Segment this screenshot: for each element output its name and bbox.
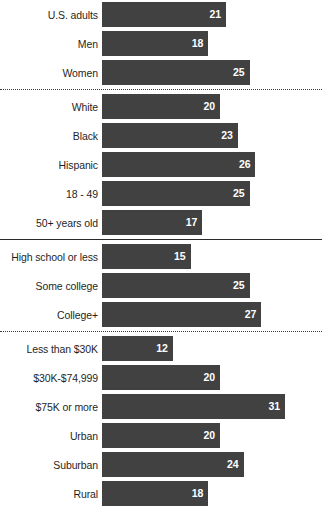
bar-value-label: 25 — [233, 280, 244, 291]
bar: 20 — [102, 365, 220, 390]
bar-category-label: Less than $30K — [0, 343, 102, 355]
bar-value-label: 18 — [192, 38, 203, 49]
bar-category-label: Rural — [0, 488, 102, 500]
chart-group-income-and-community: Less than $30K12$30K-$74,99920$75K or mo… — [0, 334, 322, 506]
bar-category-label: U.S. adults — [0, 9, 102, 21]
bar-track: 15 — [102, 242, 322, 271]
bar-row: 50+ years old17 — [0, 208, 322, 237]
bar-value-label: 21 — [209, 9, 220, 20]
bar-track: 27 — [102, 300, 322, 329]
bar-row: U.S. adults21 — [0, 0, 322, 29]
bar-track: 21 — [102, 0, 322, 29]
bar: 12 — [102, 336, 173, 361]
bar-row: 18 - 4925 — [0, 179, 322, 208]
bar-value-label: 17 — [186, 217, 197, 228]
bar-category-label: High school or less — [0, 251, 102, 263]
bar-row: Suburban24 — [0, 450, 322, 479]
bar: 21 — [102, 2, 226, 27]
bar-chart: U.S. adults21Men18Women25White20Black23H… — [0, 0, 322, 506]
bar-value-label: 24 — [227, 459, 238, 470]
bar-track: 17 — [102, 208, 322, 237]
bar-row: Black23 — [0, 121, 322, 150]
bar-track: 18 — [102, 479, 322, 506]
bar-value-label: 23 — [221, 130, 232, 141]
bar-track: 20 — [102, 92, 322, 121]
bar-category-label: 18 - 49 — [0, 188, 102, 200]
bar-track: 25 — [102, 271, 322, 300]
bar-row: $30K-$74,99920 — [0, 363, 322, 392]
bar-track: 31 — [102, 392, 322, 421]
chart-group-total-and-gender: U.S. adults21Men18Women25 — [0, 0, 322, 87]
bar: 20 — [102, 94, 220, 119]
bar: 25 — [102, 60, 250, 85]
bar-row: Less than $30K12 — [0, 334, 322, 363]
bar-category-label: Women — [0, 67, 102, 79]
bar-track: 24 — [102, 450, 322, 479]
bar-value-label: 26 — [239, 159, 250, 170]
bar-row: Women25 — [0, 58, 322, 87]
bar-track: 23 — [102, 121, 322, 150]
bar-track: 25 — [102, 58, 322, 87]
bar-row: Some college25 — [0, 271, 322, 300]
bar-category-label: $30K-$74,999 — [0, 372, 102, 384]
bar: 27 — [102, 302, 261, 327]
bar-track: 12 — [102, 334, 322, 363]
bar-track: 25 — [102, 179, 322, 208]
bar-value-label: 25 — [233, 188, 244, 199]
bar: 20 — [102, 423, 220, 448]
bar-category-label: Hispanic — [0, 159, 102, 171]
chart-group-race-and-age: White20Black23Hispanic2618 - 492550+ yea… — [0, 92, 322, 237]
chart-group-education: High school or less15Some college25Colle… — [0, 242, 322, 329]
bar-track: 18 — [102, 29, 322, 58]
bar-row: White20 — [0, 92, 322, 121]
bar-row: Men18 — [0, 29, 322, 58]
bar-value-label: 12 — [156, 343, 167, 354]
bar-value-label: 31 — [268, 401, 279, 412]
bar: 31 — [102, 394, 285, 419]
bar-category-label: White — [0, 101, 102, 113]
bar: 25 — [102, 181, 250, 206]
bar-category-label: Suburban — [0, 459, 102, 471]
bar-category-label: College+ — [0, 309, 102, 321]
bar-category-label: Black — [0, 130, 102, 142]
bar-value-label: 20 — [204, 430, 215, 441]
bar-row: College+27 — [0, 300, 322, 329]
bar-row: $75K or more31 — [0, 392, 322, 421]
bar-value-label: 25 — [233, 67, 244, 78]
bar-track: 20 — [102, 421, 322, 450]
bar-category-label: Urban — [0, 430, 102, 442]
bar-row: Hispanic26 — [0, 150, 322, 179]
bar: 15 — [102, 244, 191, 269]
bar-track: 26 — [102, 150, 322, 179]
bar-value-label: 20 — [204, 372, 215, 383]
bar-row: Rural18 — [0, 479, 322, 506]
bar-value-label: 20 — [204, 101, 215, 112]
bar: 17 — [102, 210, 202, 235]
bar: 23 — [102, 123, 238, 148]
bar-value-label: 27 — [245, 309, 256, 320]
bar: 18 — [102, 481, 208, 506]
bar: 18 — [102, 31, 208, 56]
bar-row: Urban20 — [0, 421, 322, 450]
bar: 26 — [102, 152, 255, 177]
bar: 24 — [102, 452, 244, 477]
bar-category-label: 50+ years old — [0, 217, 102, 229]
bar-track: 20 — [102, 363, 322, 392]
bar-category-label: Some college — [0, 280, 102, 292]
bar-value-label: 18 — [192, 488, 203, 499]
bar-value-label: 15 — [174, 251, 185, 262]
bar-category-label: Men — [0, 38, 102, 50]
bar: 25 — [102, 273, 250, 298]
bar-row: High school or less15 — [0, 242, 322, 271]
bar-category-label: $75K or more — [0, 401, 102, 413]
